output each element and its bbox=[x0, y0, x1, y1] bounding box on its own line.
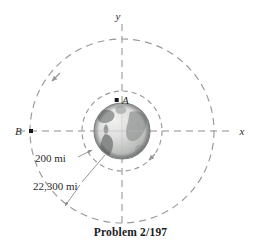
dimension-label-200mi: 200 mi bbox=[35, 152, 66, 164]
earth-globe bbox=[94, 103, 150, 159]
leader-200mi bbox=[78, 150, 92, 157]
figure-caption: Problem 2/197 bbox=[0, 226, 261, 238]
dimension-label-22300mi: 22,300 mi bbox=[33, 180, 78, 192]
y-axis-label: y bbox=[115, 10, 121, 22]
point-label-a: A bbox=[121, 94, 129, 106]
figure-container: y x A B 200 mi 22,300 mi Problem 2/197 bbox=[0, 0, 261, 247]
point-marker-b bbox=[29, 129, 33, 133]
outer-orbit-direction-arrow bbox=[52, 73, 60, 81]
inner-orbit-direction-arrow bbox=[149, 154, 155, 160]
point-label-b: B bbox=[15, 125, 22, 137]
x-axis-label: x bbox=[239, 125, 245, 137]
orbit-diagram: y x A B 200 mi 22,300 mi bbox=[0, 0, 261, 247]
point-marker-a bbox=[115, 98, 119, 102]
